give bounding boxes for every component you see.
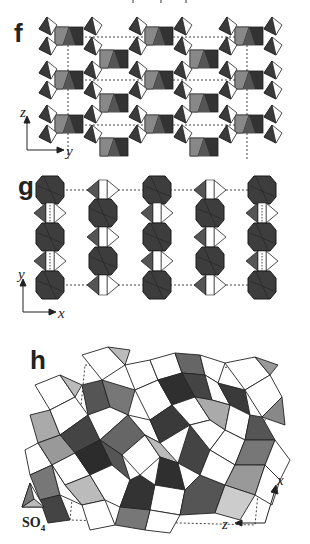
so4-annotation: SO4 — [22, 515, 45, 533]
axis-label-y-g: y — [16, 266, 25, 282]
axis-label-z-h: z — [221, 516, 228, 532]
axis-label-x-h: x — [276, 472, 284, 488]
so4-text: SO — [22, 515, 41, 530]
so4-subscript: 4 — [41, 523, 46, 533]
panel-f: f — [0, 0, 310, 165]
axis-label-x-g: x — [57, 305, 65, 321]
panel-g: g — [0, 165, 310, 335]
panel-h-structure: x z — [0, 335, 310, 544]
panel-h: h — [0, 335, 310, 544]
panel-g-structure: y x — [0, 165, 310, 335]
panel-f-structure — [0, 0, 310, 165]
